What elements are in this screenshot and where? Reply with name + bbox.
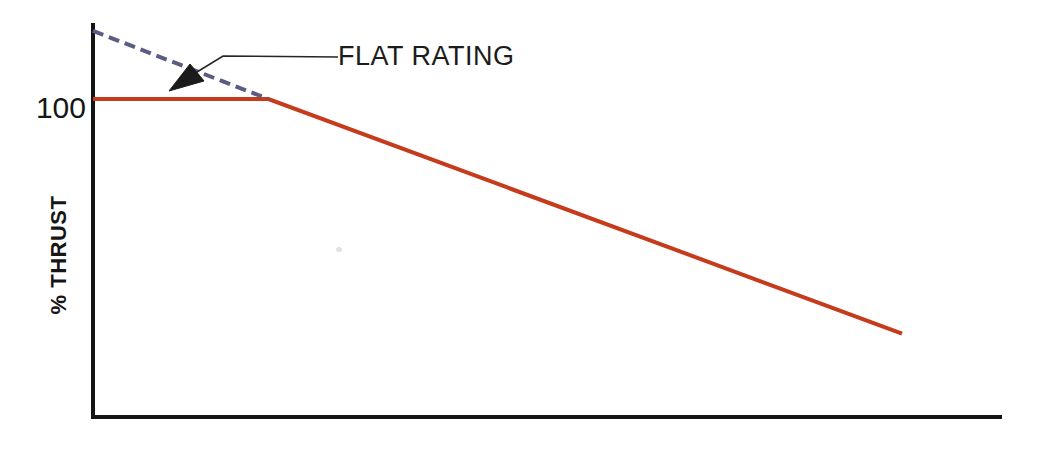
chart-plot [0,0,1042,450]
y-axis-title: % THRUST [46,196,72,315]
arrowhead-icon [169,64,204,91]
flat-rating-annotation: FLAT RATING [338,42,515,71]
series-lines [93,31,902,334]
y-tick-100: 100 [28,93,86,123]
annotation-arrow [169,56,338,91]
series-thrust [93,99,902,334]
leader-line [197,56,338,72]
figure-canvas: 100 % THRUST FLAT RATING [0,0,1042,450]
series-flat-rating-extension [93,31,268,99]
scan-speck-artifact [336,247,342,252]
